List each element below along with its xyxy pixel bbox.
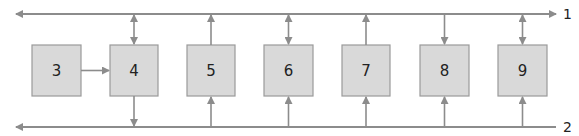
bus-diagram: 1 2 3 4 5 6 7 8 [0,0,579,136]
box-4-label: 4 [129,62,139,80]
bus-2: 2 [16,119,572,135]
box-8: 8 [420,45,469,96]
box-8-label: 8 [440,62,450,80]
box-9-label: 9 [518,62,528,80]
bus-1: 1 [16,6,572,22]
box-5-label: 5 [206,62,216,80]
box-3-label: 3 [52,62,62,80]
bus-2-label: 2 [563,119,572,135]
box-6: 6 [264,45,313,96]
box-9: 9 [498,45,547,96]
box-7-label: 7 [361,62,371,80]
box-5: 5 [187,45,235,96]
box-4: 4 [110,45,158,96]
box-6-label: 6 [284,62,294,80]
bus-1-label: 1 [563,6,572,22]
box-7: 7 [342,45,390,96]
box-3: 3 [32,45,81,96]
